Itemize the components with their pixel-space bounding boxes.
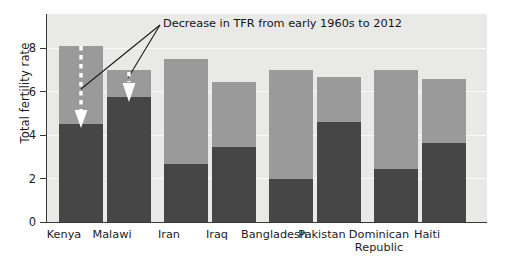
x-axis-line <box>46 222 487 223</box>
y-tick-6 <box>40 91 47 92</box>
bar-present-kenya <box>59 124 103 222</box>
plot-area <box>47 14 487 222</box>
y-tick-2 <box>40 178 47 179</box>
bar-present-dominican-republic <box>374 169 418 222</box>
x-label-haiti-line1: Haiti <box>392 228 462 241</box>
y-tick-8 <box>40 48 47 49</box>
y-tick-label-6: 6 <box>6 85 36 99</box>
annotation-label: Decrease in TFR from early 1960s to 2012 <box>163 17 402 30</box>
gridline-8 <box>47 48 487 49</box>
bar-present-pakistan <box>317 122 361 222</box>
x-label-haiti: Haiti <box>392 228 462 241</box>
bar-present-malawi <box>107 97 151 222</box>
chart-figure: Total fertility rate 0 2 4 6 8 <box>0 0 506 266</box>
bar-present-iran <box>164 164 208 222</box>
y-tick-label-8: 8 <box>6 41 36 55</box>
bar-present-haiti <box>422 143 466 222</box>
y-tick-label-4: 4 <box>6 128 36 142</box>
y-tick-4 <box>40 135 47 136</box>
bar-present-bangladesh <box>269 179 313 223</box>
y-tick-label-0: 0 <box>6 215 36 229</box>
bar-present-iraq <box>212 147 256 222</box>
y-tick-label-2: 2 <box>6 172 36 186</box>
x-label-dominican-republic-line2: Republic <box>344 241 414 254</box>
